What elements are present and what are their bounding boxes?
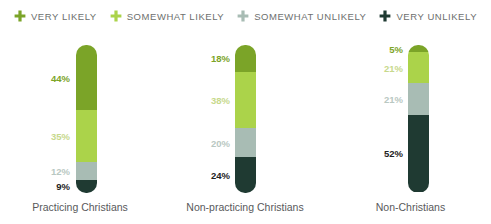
- value-label: 9%: [56, 181, 70, 192]
- value-label: 18%: [211, 53, 230, 64]
- chart-legend: VERY LIKELY SOMEWHAT LIKELY SOMEWHAT UNL…: [0, 7, 491, 25]
- value-label: 35%: [51, 131, 70, 142]
- value-label: 52%: [384, 148, 403, 159]
- segment-very-likely: [76, 45, 97, 110]
- value-label: 20%: [211, 137, 230, 148]
- value-label: 21%: [384, 62, 403, 73]
- legend-label-very-unlikely: VERY UNLIKELY: [396, 11, 477, 22]
- category-label-non-christians: Non-Christians: [330, 201, 491, 213]
- segment-very-unlikely: [408, 115, 429, 192]
- stacked-bar: [235, 45, 256, 193]
- legend-item-very-unlikely: VERY UNLIKELY: [379, 10, 477, 22]
- plus-cross-icon: [379, 10, 391, 22]
- plus-cross-icon: [14, 10, 26, 22]
- legend-item-somewhat-likely: SOMEWHAT LIKELY: [110, 10, 224, 22]
- legend-label-somewhat-unlikely: SOMEWHAT UNLIKELY: [254, 11, 366, 22]
- segment-somewhat-likely: [408, 52, 429, 83]
- segment-somewhat-unlikely: [408, 83, 429, 114]
- legend-item-very-likely: VERY LIKELY: [14, 10, 97, 22]
- value-label: 44%: [51, 72, 70, 83]
- bar-group-non-practicing-christians: 18% 38% 20% 24% Non-practicing Christian…: [160, 33, 330, 224]
- value-label: 24%: [211, 170, 230, 181]
- stacked-bar: [76, 45, 97, 193]
- value-label: 38%: [211, 94, 230, 105]
- value-label: 5%: [389, 43, 403, 54]
- stacked-bar: [408, 45, 429, 193]
- segment-very-likely: [408, 45, 429, 52]
- legend-label-very-likely: VERY LIKELY: [31, 11, 97, 22]
- bar-group-non-christians: 5% 21% 21% 52% Non-Christians: [330, 33, 491, 224]
- category-label-practicing-christians: Practicing Christians: [0, 201, 160, 213]
- plus-cross-icon: [110, 10, 122, 22]
- category-label-non-practicing-christians: Non-practicing Christians: [160, 201, 330, 213]
- legend-item-somewhat-unlikely: SOMEWHAT UNLIKELY: [237, 10, 366, 22]
- segment-very-unlikely: [76, 180, 97, 193]
- segment-very-unlikely: [235, 157, 256, 193]
- legend-label-somewhat-likely: SOMEWHAT LIKELY: [127, 11, 224, 22]
- value-label: 12%: [51, 165, 70, 176]
- segment-somewhat-unlikely: [235, 128, 256, 158]
- stacked-bar-chart: 44% 35% 12% 9% Practicing Christians 18%…: [0, 33, 491, 224]
- bar-group-practicing-christians: 44% 35% 12% 9% Practicing Christians: [0, 33, 160, 224]
- segment-very-likely: [235, 45, 256, 72]
- plus-cross-icon: [237, 10, 249, 22]
- value-label: 21%: [384, 94, 403, 105]
- segment-somewhat-likely: [76, 110, 97, 162]
- segment-somewhat-unlikely: [76, 162, 97, 180]
- segment-somewhat-likely: [235, 72, 256, 128]
